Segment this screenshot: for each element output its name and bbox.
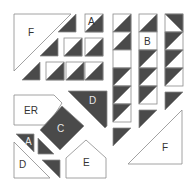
col1-triangle [113,128,131,146]
label-a-top: A [88,16,95,27]
piece-f-bottom [128,110,182,164]
label-er: ER [24,105,38,116]
col1-square [113,50,131,68]
label-f-top: F [28,27,34,38]
label-f-bottom: F [162,142,168,153]
label-c: C [57,123,64,134]
col3-triangle [165,92,183,110]
label-d-bottom: D [19,159,26,170]
quilt-diagram: F A B ER D E F D C A [0,0,191,189]
strip-triangle [22,62,40,80]
label-d-dark: D [89,95,96,106]
label-e: E [83,157,90,168]
col2-triangle [139,110,157,128]
label-a-bottom: A [25,136,32,147]
label-b: B [144,36,151,47]
